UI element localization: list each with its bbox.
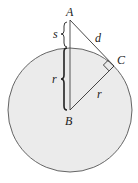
label-b: B xyxy=(65,114,73,128)
label-c: C xyxy=(117,53,126,67)
brace-s xyxy=(61,22,67,47)
label-r-radius: r xyxy=(97,87,102,101)
label-a: A xyxy=(65,5,74,19)
label-s: s xyxy=(53,27,58,41)
label-d: d xyxy=(95,31,102,45)
geometry-diagram: A B C d s r r xyxy=(0,0,138,183)
label-r-brace: r xyxy=(52,72,57,86)
